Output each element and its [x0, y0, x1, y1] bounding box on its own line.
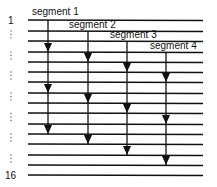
ellipsis-dot	[10, 51, 11, 52]
row-line	[28, 62, 203, 63]
segment-1-arrow	[44, 20, 52, 134]
arrowhead-icon	[44, 125, 52, 134]
row-line	[28, 113, 203, 114]
row-line	[28, 72, 203, 73]
ellipsis-dot	[10, 55, 11, 56]
ellipsis-dot	[10, 137, 11, 138]
ellipsis-dot	[10, 96, 11, 97]
segment-4-arrow	[162, 52, 170, 165]
row-line	[28, 82, 203, 83]
ellipsis-dot	[10, 58, 11, 59]
ellipsis-dot	[10, 78, 11, 79]
row-line	[28, 144, 203, 145]
row-line	[28, 93, 203, 94]
row-line	[28, 124, 203, 125]
ellipsis-dot	[10, 37, 11, 38]
ellipsis-dot	[10, 140, 11, 141]
segment-diagram: 1 16 segment 1 segment 2 segment 3 segme…	[0, 0, 217, 187]
row-line	[28, 103, 203, 104]
arrowhead-icon	[123, 146, 131, 155]
arrowhead-icon	[162, 115, 170, 124]
ellipsis-dot	[10, 92, 11, 93]
row-line	[28, 175, 203, 176]
arrowhead-icon	[84, 94, 92, 103]
ellipsis-dot	[10, 30, 11, 31]
ellipsis-dot	[10, 99, 11, 100]
ellipsis-dot	[10, 120, 11, 121]
row-line	[28, 155, 203, 156]
ellipsis-dot	[10, 113, 11, 114]
segment-2-arrow	[84, 31, 92, 144]
segment-3-label: segment 3	[110, 29, 157, 40]
arrowhead-icon	[123, 104, 131, 113]
arrowhead-icon	[84, 135, 92, 144]
ellipsis-dot	[10, 158, 11, 159]
arrowhead-icon	[162, 73, 170, 82]
ellipsis-dot	[10, 133, 11, 134]
ellipsis-dot	[10, 116, 11, 117]
ellipsis-marks	[10, 30, 11, 162]
arrowhead-icon	[44, 84, 52, 93]
arrowhead-icon	[123, 63, 131, 72]
row-line	[28, 165, 203, 166]
ellipsis-dot	[10, 34, 11, 35]
segment-1-label: segment 1	[32, 6, 79, 17]
arrowhead-icon	[84, 53, 92, 62]
segment-3-arrow	[123, 41, 131, 155]
arrowhead-icon	[162, 156, 170, 165]
row-line	[28, 134, 203, 135]
row-line	[28, 52, 203, 53]
arrowhead-icon	[44, 43, 52, 52]
ellipsis-dot	[10, 161, 11, 162]
ellipsis-dot	[10, 75, 11, 76]
segment-4-label: segment 4	[150, 40, 197, 51]
row-label-first: 1	[8, 15, 14, 26]
ellipsis-dot	[10, 71, 11, 72]
ellipsis-dot	[10, 154, 11, 155]
row-label-last: 16	[5, 170, 17, 181]
